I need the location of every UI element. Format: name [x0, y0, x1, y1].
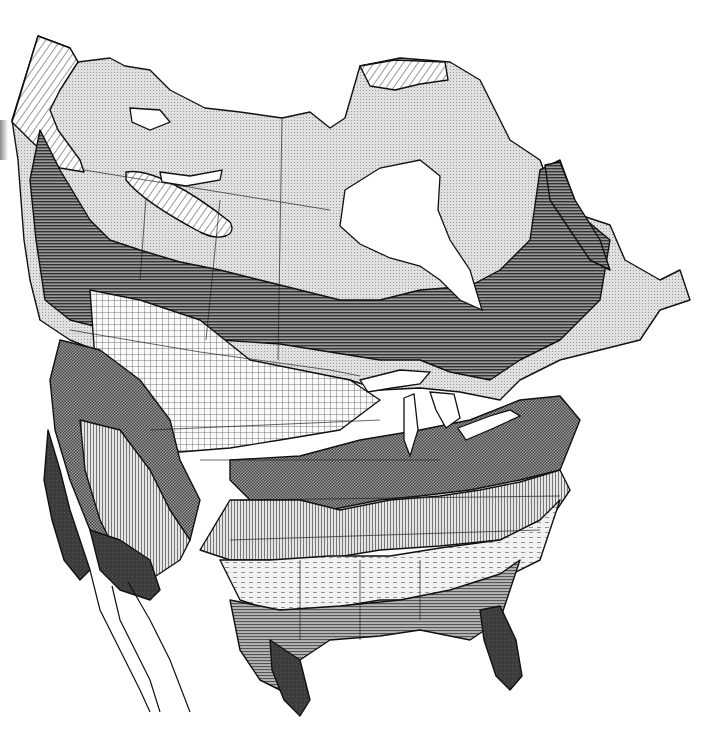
mexico-mainland [128, 582, 190, 712]
continent [12, 36, 690, 716]
region-florida [480, 606, 522, 690]
north-america-zone-map [0, 0, 716, 754]
map-svg [0, 0, 716, 754]
